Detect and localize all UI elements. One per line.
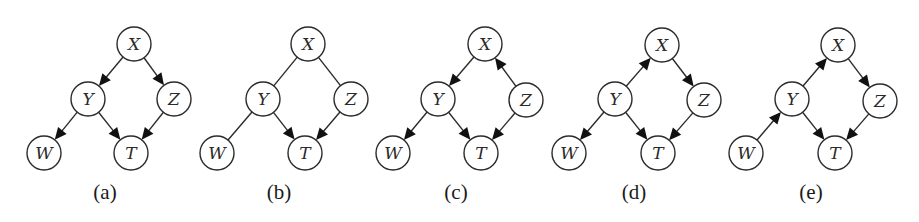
edge-x-z [672,59,693,87]
node-label: Z [873,91,887,111]
node-label: T [829,143,842,163]
arrowhead-icon [813,127,825,140]
node-label: W [737,143,756,163]
panel-caption: (e) [799,180,822,204]
edge-z-t [669,113,693,140]
edge-line [318,57,340,85]
edge-line [626,65,644,86]
edge-line [853,114,869,133]
node-x: X [821,28,855,62]
node-label: X [477,34,492,54]
edge-z-t [492,113,515,140]
edge-line [848,59,864,80]
node-y: Y [71,82,105,116]
node-z: Z [509,83,543,117]
edge-line [626,112,642,132]
panel-caption: (a) [93,180,116,204]
node-label: Z [344,89,358,109]
node-label: Z [167,89,181,109]
arrowhead-icon [142,127,154,140]
node-x: X [291,27,325,61]
node-label: W [560,143,579,163]
edge-line [148,112,164,132]
edge-y-t [626,112,648,139]
panel-caption: (c) [444,180,467,204]
node-z: Z [334,82,368,116]
node-label: T [475,143,488,163]
edge-x-z [318,57,340,85]
panel-e: XYZWT(e) [729,28,897,204]
edge-y-t [803,112,825,139]
causal-graph-figure: XYZWT(a)XYZWT(b)XYZWT(c)XYZWT(d)XYZWT(e) [0,0,919,222]
edge-x-y [449,57,474,86]
edge-line [99,112,115,132]
node-label: X [830,35,845,55]
edge-line [61,112,77,132]
edge-line [274,57,297,86]
node-z: Z [687,83,721,117]
node-label: Y [257,89,270,109]
node-label: W [384,143,403,163]
arrowhead-icon [99,73,111,86]
edge-y-t [99,112,121,139]
edge-line [676,113,693,133]
node-label: Y [82,89,95,109]
node-w: W [729,136,763,170]
edge-x-y [274,57,297,86]
edge-line [587,112,604,133]
edge-line [410,112,427,132]
edge-z-x [495,58,516,87]
arrowhead-icon [316,127,328,140]
edge-line [672,59,687,79]
arrowhead-icon [55,127,67,140]
edge-line [456,57,474,79]
node-w: W [552,136,586,170]
node-y: Y [421,82,455,116]
arrowhead-icon [459,127,471,140]
edge-line [144,58,158,77]
edge-y-x [626,58,651,86]
panel-c: XYZWT(c) [376,27,543,204]
edge-line [228,112,252,140]
node-t: T [464,136,498,170]
node-label: Z [519,90,533,110]
panel-caption: (d) [622,180,647,204]
arrowhead-icon [636,127,648,140]
edge-y-t [449,112,471,139]
node-label: Y [609,89,622,109]
edge-x-z [144,58,164,86]
edge-line [449,112,465,132]
panel-caption: (b) [267,180,292,204]
edge-line [323,112,340,133]
node-t: T [641,136,675,170]
arrowhead-icon [153,72,165,85]
panel-d: XYZWT(d) [552,28,721,204]
arrowhead-icon [769,112,781,125]
node-label: T [125,143,138,163]
arrowhead-icon [404,127,416,140]
edge-z-t [142,112,164,139]
arrowhead-icon [283,127,295,140]
edge-y-w [228,112,252,140]
node-label: W [208,143,227,163]
arrowhead-icon [492,127,504,140]
edge-z-t [846,114,869,140]
edge-y-x [803,58,827,86]
node-x: X [468,27,502,61]
node-label: X [126,34,141,54]
arrowhead-icon [682,74,694,87]
edge-y-w [404,112,427,140]
edge-x-z [848,59,870,88]
node-label: T [299,143,312,163]
arrowhead-icon [580,127,592,140]
edge-line [803,112,819,132]
edge-y-w [55,112,78,140]
panel-a: XYZWT(a) [27,27,191,204]
edge-w-y [757,112,781,140]
node-w: W [200,136,234,170]
edge-z-t [316,112,340,140]
node-label: Z [697,90,711,110]
node-w: W [27,136,61,170]
arrowhead-icon [109,127,121,140]
figure-canvas: XYZWT(a)XYZWT(b)XYZWT(c)XYZWT(d)XYZWT(e) [0,0,919,222]
